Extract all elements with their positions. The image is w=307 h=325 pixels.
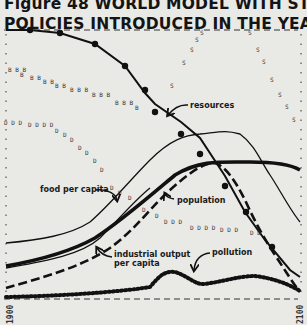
svg-text:D: D (70, 136, 74, 143)
svg-text:S: S (200, 29, 204, 36)
arrow-resources (168, 105, 188, 115)
svg-text:S: S (292, 116, 296, 123)
svg-text:D D D: D D D (164, 218, 182, 225)
svg-text:D: D (142, 206, 146, 213)
x-start-year: 1900 (6, 305, 15, 324)
svg-text:D: D (85, 149, 89, 156)
svg-text:D: D (128, 194, 132, 201)
chart-plot: B B BBB B B BB BB B B B B BB B BB D D DD… (0, 0, 307, 325)
svg-text:D: D (100, 166, 104, 173)
svg-text:S: S (278, 91, 282, 98)
svg-text:S: S (270, 76, 274, 83)
svg-text:S: S (262, 58, 266, 65)
svg-text:S: S (170, 82, 174, 89)
svg-text:D D D: D D D (220, 226, 238, 233)
x-end-year: 2100 (296, 305, 305, 324)
svg-text:D D D D: D D D D (190, 224, 216, 231)
svg-text:S: S (285, 103, 289, 110)
svg-text:S: S (182, 59, 186, 66)
svg-text:D: D (155, 212, 159, 219)
svg-text:B: B (135, 104, 139, 111)
svg-text:B B: B B (55, 82, 66, 89)
svg-text:D D D D: D D D D (28, 121, 54, 128)
curve-symbol-markers: B B BBB B B BB BB B B B B BB B BB D D DD… (4, 29, 296, 236)
label-resources: resources (190, 101, 234, 110)
svg-text:S: S (248, 29, 252, 36)
svg-text:D: D (55, 127, 59, 134)
svg-text:D: D (118, 189, 122, 196)
svg-text:B B B: B B B (92, 91, 110, 98)
label-pollution: pollution (212, 248, 252, 257)
svg-text:S: S (190, 46, 194, 53)
svg-text:S: S (256, 46, 260, 53)
resources-line (6, 30, 300, 277)
svg-text:D: D (93, 157, 97, 164)
svg-text:D: D (78, 144, 82, 151)
label-population: population (177, 196, 226, 205)
svg-text:D D: D D (250, 229, 261, 236)
svg-text:S: S (195, 36, 199, 43)
svg-text:B B B: B B B (8, 66, 26, 73)
label-industrial-output: industrial output (114, 250, 190, 259)
svg-text:D: D (63, 131, 67, 138)
arrow-pollution (194, 253, 210, 270)
svg-text:B: B (20, 71, 24, 78)
svg-text:B B: B B (30, 74, 41, 81)
svg-text:D D D: D D D (4, 119, 22, 126)
svg-text:B B B: B B B (115, 99, 133, 106)
arrow-population (165, 194, 174, 199)
svg-text:B B B: B B B (70, 86, 88, 93)
label-per-capita: per capita (114, 259, 160, 268)
resources-markers (27, 27, 275, 250)
svg-text:D: D (110, 184, 114, 191)
svg-text:B B: B B (43, 78, 54, 85)
